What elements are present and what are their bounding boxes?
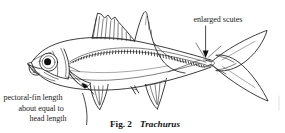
scutes-bracket-lower-right — [210, 65, 226, 74]
pectoral-fin-length-line-3: head length — [30, 114, 67, 123]
pectoral-fin-length-line-2: about equal to — [19, 104, 64, 113]
fish-head — [28, 48, 69, 81]
first-dorsal-fin — [92, 13, 134, 41]
caption-prefix: Fig. 2 — [110, 119, 132, 129]
pelvic-fin — [90, 84, 108, 109]
pectoral-fin-length-line-1: pectoral-fin length — [4, 93, 63, 102]
annotation-enlarged-scutes: enlarged scutes — [168, 15, 242, 74]
enlarged-scutes-arrowhead — [203, 50, 209, 58]
annotation-pectoral-fin-length: pectoral-fin length about equal to head … — [4, 84, 95, 125]
caption-taxon: Trachurus — [140, 119, 180, 129]
eye — [40, 53, 58, 71]
figure-caption: Fig. 2 Trachurus — [110, 119, 180, 129]
trachurus-line-drawing: enlarged scutes pectoral-fin length abou… — [0, 0, 285, 133]
caudal-fin — [196, 30, 268, 101]
lateral-line-with-scutes — [70, 48, 206, 68]
figure-container: enlarged scutes pectoral-fin length abou… — [0, 0, 285, 133]
anal-fin — [145, 78, 167, 109]
enlarged-scutes-label: enlarged scutes — [194, 15, 243, 24]
scutes-bracket-left — [196, 43, 204, 56]
pectoral-fin-leader — [83, 93, 88, 125]
